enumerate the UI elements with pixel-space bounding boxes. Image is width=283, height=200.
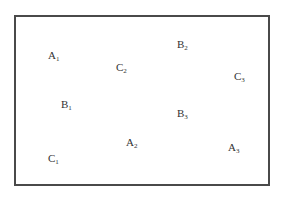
- label-c3: C3: [234, 71, 245, 82]
- label-a2: A2: [126, 137, 137, 148]
- label-letter: A: [126, 136, 134, 148]
- label-subscript: 2: [184, 44, 188, 52]
- label-subscript: 2: [134, 142, 138, 150]
- label-subscript: 1: [68, 104, 72, 112]
- label-c2: C2: [116, 62, 127, 73]
- label-letter: A: [228, 141, 236, 153]
- label-b1: B1: [61, 99, 72, 110]
- label-b2: B2: [177, 39, 188, 50]
- label-c1: C1: [48, 153, 59, 164]
- label-subscript: 3: [241, 76, 245, 84]
- label-subscript: 2: [123, 67, 127, 75]
- label-subscript: 3: [236, 147, 240, 155]
- label-b3: B3: [177, 108, 188, 119]
- label-a1: A1: [48, 50, 59, 61]
- label-subscript: 1: [56, 55, 60, 63]
- label-subscript: 1: [55, 158, 59, 166]
- label-letter: A: [48, 49, 56, 61]
- label-subscript: 3: [184, 113, 188, 121]
- label-a3: A3: [228, 142, 239, 153]
